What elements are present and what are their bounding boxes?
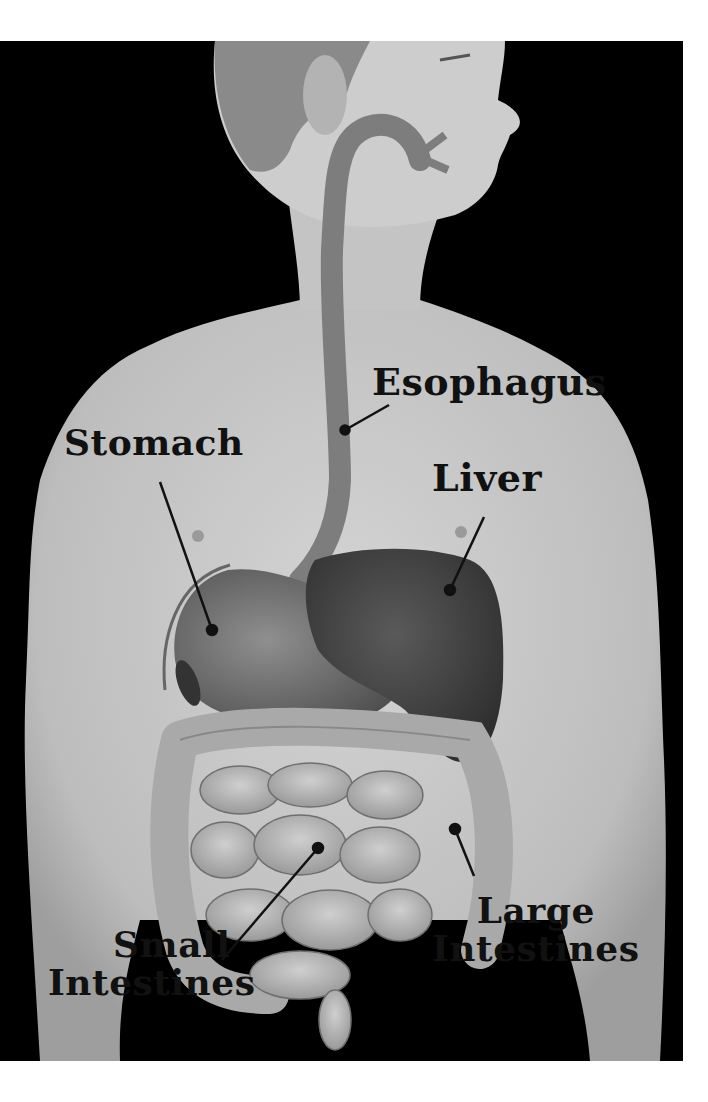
label-small-intestines-line2: Intestines [48,964,255,1002]
label-large-intestines: Large Intestines [432,892,639,968]
digestive-system-diagram: Esophagus Stomach Liver Small Intestines… [0,0,708,1102]
label-liver: Liver [432,458,542,498]
label-small-intestines-line1: Small [88,926,255,964]
label-large-intestines-line1: Large [432,892,639,930]
label-small-intestines: Small Intestines [88,926,255,1002]
label-esophagus: Esophagus [372,362,607,402]
label-large-intestines-line2: Intestines [432,930,639,968]
label-stomach: Stomach [64,424,244,462]
